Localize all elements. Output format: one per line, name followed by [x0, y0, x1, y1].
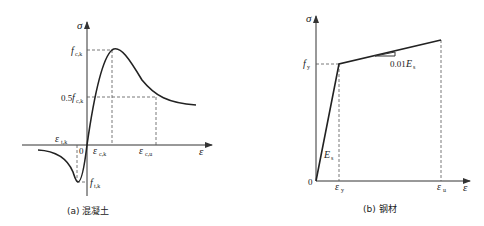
svg-text:s: s	[331, 155, 334, 161]
svg-text:c,k: c,k	[76, 98, 83, 104]
tensile-stress-label: f t,k	[90, 177, 100, 189]
svg-text:y: y	[307, 64, 310, 70]
concrete-curve	[38, 49, 196, 182]
svg-text:ε: ε	[55, 133, 59, 144]
svg-text:c,u: c,u	[145, 151, 152, 157]
stress-strain-diagrams: σ ε 0 f c,k 0.5 f c,k ε t,k f t,k ε c,k …	[0, 0, 484, 226]
svg-text:t,k: t,k	[94, 183, 100, 189]
svg-text:u: u	[443, 187, 446, 193]
steel-chart: σ ε 0 f y 0.01 E s E s ε y ε u (b) 钢材	[303, 12, 470, 214]
steel-epsilon-label: ε	[463, 181, 468, 193]
svg-text:s: s	[413, 64, 416, 70]
steel-ultimate-strain-label: ε u	[437, 181, 446, 193]
elastic-modulus-label: E s	[323, 149, 334, 161]
half-peak-stress-label: 0.5 f c,k	[61, 92, 83, 104]
svg-text:ε: ε	[93, 145, 97, 156]
svg-text:ε: ε	[335, 181, 339, 192]
svg-text:0.01: 0.01	[390, 59, 406, 69]
concrete-chart: σ ε 0 f c,k 0.5 f c,k ε t,k f t,k ε c,k …	[22, 19, 212, 216]
svg-text:E: E	[405, 58, 412, 69]
steel-origin-label: 0	[308, 177, 313, 187]
concrete-caption: (a) 混凝土	[67, 205, 109, 216]
peak-stress-label: f c,k	[71, 45, 82, 57]
svg-text:ε: ε	[139, 145, 143, 156]
svg-text:c,k: c,k	[75, 51, 82, 57]
hardening-slope-label: 0.01 E s	[390, 58, 416, 70]
concrete-sigma-label: σ	[77, 19, 83, 31]
yield-strain-label: ε y	[335, 181, 344, 193]
steel-sigma-label: σ	[306, 12, 312, 24]
yield-stress-label: f y	[303, 58, 310, 70]
svg-text:0.5: 0.5	[61, 93, 73, 103]
tensile-strain-label: ε t,k	[55, 133, 67, 145]
steel-curve	[316, 40, 441, 181]
svg-text:c,k: c,k	[99, 151, 106, 157]
svg-text:E: E	[323, 149, 330, 160]
concrete-epsilon-label: ε	[199, 145, 204, 157]
peak-strain-label: ε c,k	[93, 145, 106, 157]
steel-caption: (b) 钢材	[363, 203, 397, 214]
ultimate-strain-label: ε c,u	[139, 145, 152, 157]
svg-text:ε: ε	[437, 181, 441, 192]
concrete-origin-label: 0	[79, 146, 84, 156]
svg-text:y: y	[341, 187, 344, 193]
svg-text:t,k: t,k	[61, 139, 67, 145]
